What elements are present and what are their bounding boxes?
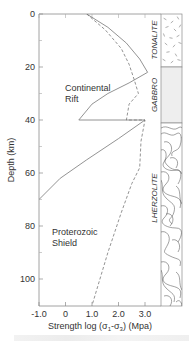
y-ticks: 020406080100	[20, 9, 43, 284]
tonalite-label: TONALITE	[150, 20, 159, 60]
gabbro-label: GABBRO	[150, 78, 159, 112]
x-axis-title: Strength log (σ1-σ3) (Mpa)	[48, 321, 152, 332]
x-tick-label: 3.0	[139, 309, 152, 319]
speckle	[166, 52, 169, 53]
lherzolite-label: LHERZOLITE	[150, 173, 159, 223]
x-tick-label: 1.0	[86, 309, 99, 319]
plot-area	[39, 14, 148, 306]
continental-rift-annotation: Continental Rift	[65, 83, 113, 104]
proterozoic-shield-curve	[87, 14, 145, 306]
x-ticks: -1.001.02.03.0	[31, 14, 151, 319]
y-tick-label: 40	[25, 115, 35, 125]
strength-depth-chart: 020406080100 -1.001.02.03.0 TONAL	[0, 0, 189, 343]
speckle	[169, 38, 172, 39]
continental-rift-line-1: Continental	[65, 83, 111, 93]
lithology-column: TONALITE GABBRO LHERZOLITE	[150, 14, 183, 306]
x-title-suffix: ) (Mpa)	[123, 321, 152, 331]
y-tick-label: 20	[25, 62, 35, 72]
gabbro-layer	[161, 67, 182, 123]
x-tick-label: -1.0	[31, 309, 47, 319]
y-tick-label: 0	[30, 9, 35, 19]
x-title-prefix: Strength log (σ	[48, 321, 108, 331]
continental-rift-line-2: Rift	[65, 94, 79, 104]
x-tick-label: 0	[63, 309, 68, 319]
proterozoic-shield-line-2: Shield	[52, 238, 77, 248]
proterozoic-shield-annotation: Proterozoic Shield	[52, 227, 100, 248]
continental-rift-curve	[39, 14, 148, 200]
y-tick-label: 60	[25, 168, 35, 178]
faded-caption	[14, 335, 189, 341]
y-tick-label: 100	[20, 274, 35, 284]
y-tick-label: 80	[25, 221, 35, 231]
x-tick-label: 2.0	[112, 309, 125, 319]
proterozoic-shield-line-1: Proterozoic	[52, 227, 98, 237]
y-axis-title: Depth (km)	[6, 138, 16, 183]
